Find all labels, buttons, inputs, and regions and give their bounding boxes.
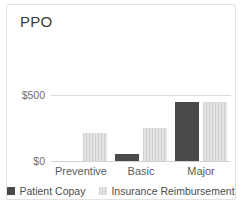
legend-label: Patient Copay (19, 185, 85, 197)
gridline: $0 (51, 161, 231, 162)
bar-group: Basic (111, 95, 171, 161)
legend-swatch-icon (99, 187, 107, 195)
chart-card: PPO $0$500PreventiveBasicMajor Patient C… (6, 4, 236, 200)
bar (115, 154, 139, 161)
legend-swatch-icon (7, 187, 15, 195)
plot-area: $0$500PreventiveBasicMajor (51, 95, 231, 161)
y-axis-tick-label: $500 (22, 89, 45, 101)
legend-label: Insurance Reimbursement (111, 185, 234, 197)
bar-group: Major (171, 95, 231, 161)
y-axis-tick-label: $0 (33, 155, 45, 167)
x-axis-tick-label: Basic (111, 165, 171, 177)
bar-group: Preventive (51, 95, 111, 161)
x-axis-tick-label: Preventive (51, 165, 111, 177)
legend-item-patient-copay: Patient Copay (7, 185, 85, 197)
bar (175, 102, 199, 161)
bar (203, 102, 227, 161)
legend-item-insurance-reimbursement: Insurance Reimbursement (99, 185, 234, 197)
x-axis-tick-label: Major (171, 165, 231, 177)
bar (83, 133, 107, 161)
bar (143, 128, 167, 161)
chart-title: PPO (20, 13, 52, 30)
chart-legend: Patient Copay Insurance Reimbursement (7, 185, 235, 197)
